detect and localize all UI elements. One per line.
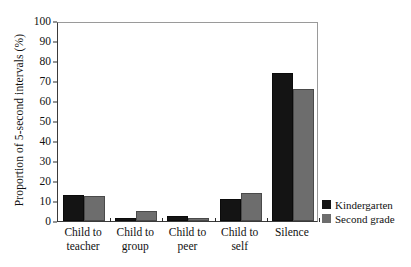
- x-axis-label: Child toself: [214, 226, 266, 253]
- y-axis-tick-label: 50: [40, 116, 52, 128]
- bar: [188, 218, 209, 221]
- y-axis-tick-label: 60: [40, 96, 52, 108]
- x-axis-label: Silence: [266, 226, 318, 240]
- x-axis-label-line: Child to: [214, 226, 266, 240]
- x-axis-label-line: peer: [161, 240, 213, 254]
- legend-swatch-icon: [322, 214, 331, 223]
- legend-label: Second grade: [335, 213, 395, 225]
- legend-label: Kindergarten: [335, 199, 393, 211]
- y-axis-tick-label: 70: [40, 76, 52, 88]
- y-axis-tick-label: 100: [34, 16, 51, 28]
- bar: [272, 73, 293, 221]
- x-axis-label: Child togroup: [109, 226, 161, 253]
- y-axis-tick-label: 40: [40, 136, 52, 148]
- x-axis-tick-mark: [319, 218, 320, 222]
- bar-chart-figure: Proportion of 5-second intervals (%) 010…: [0, 0, 411, 267]
- legend-item-kindergarten: Kindergarten: [322, 198, 410, 211]
- bar-group: [58, 195, 110, 221]
- legend-swatch-icon: [322, 200, 331, 209]
- bar-group: [162, 216, 214, 221]
- bar-group: [110, 211, 162, 221]
- x-axis-label-line: group: [109, 240, 161, 254]
- x-axis-label-line: teacher: [57, 240, 109, 254]
- y-axis-tick-label: 90: [40, 36, 52, 48]
- x-axis-label-line: Child to: [161, 226, 213, 240]
- bar: [220, 199, 241, 221]
- x-axis-label: Child topeer: [161, 226, 213, 253]
- bar: [115, 218, 136, 221]
- x-axis-label-line: Child to: [57, 226, 109, 240]
- x-axis-label: Child toteacher: [57, 226, 109, 253]
- bar-group: [267, 73, 319, 221]
- bar-group: [215, 193, 267, 221]
- bar-series-container: [58, 23, 317, 221]
- y-axis-title: Proportion of 5-second intervals (%): [13, 15, 25, 225]
- x-axis-label-line: Child to: [109, 226, 161, 240]
- legend-item-second-grade: Second grade: [322, 212, 410, 225]
- y-axis-tick-label: 80: [40, 56, 52, 68]
- x-axis-label-line: self: [214, 240, 266, 254]
- x-axis-labels: Child toteacherChild togroupChild topeer…: [57, 226, 318, 260]
- bar: [63, 195, 84, 221]
- y-axis-tick-label: 30: [40, 156, 52, 168]
- y-axis-tick-label: 0: [45, 216, 51, 228]
- x-axis-label-line: Silence: [266, 226, 318, 240]
- bar: [84, 196, 105, 221]
- chart-legend: Kindergarten Second grade: [322, 198, 410, 226]
- y-axis-tick-label: 20: [40, 176, 52, 188]
- y-axis-tick-label: 10: [40, 196, 52, 208]
- bar: [136, 211, 157, 221]
- bar: [293, 89, 314, 221]
- bar: [241, 193, 262, 221]
- plot-area: [57, 22, 318, 222]
- bar: [167, 216, 188, 221]
